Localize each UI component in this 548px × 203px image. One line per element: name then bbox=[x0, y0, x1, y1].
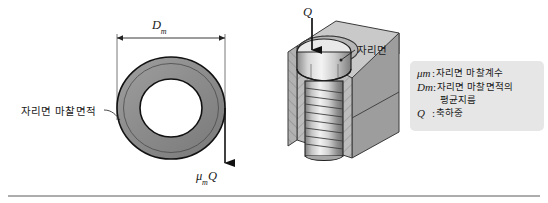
legend-symbol: Dm bbox=[417, 81, 433, 94]
friction-force-label: μmQ bbox=[196, 170, 217, 186]
axial-load-label: Q bbox=[303, 6, 312, 19]
seating-friction-area-label: 자리면 마찰면적 bbox=[21, 106, 96, 117]
legend-symbol: μm bbox=[417, 67, 432, 80]
seating-surface-label: 자리면 bbox=[357, 45, 388, 56]
legend-row: μm : 자리면 마찰계수 bbox=[417, 67, 544, 80]
legend-row: Q : 축하중 bbox=[417, 107, 544, 120]
legend-description: 자리면 마찰면적의 bbox=[437, 81, 513, 94]
legend-description: 자리면 마찰계수 bbox=[436, 67, 503, 80]
symbol-legend-box: μm : 자리면 마찰계수 Dm : 자리면 마찰면적의 평균지름 Q : 축하… bbox=[410, 61, 544, 131]
annulus-ring bbox=[117, 57, 225, 159]
legend-row: Dm : 자리면 마찰면적의 bbox=[417, 81, 544, 94]
legend-description-continuation: 평균지름 bbox=[417, 94, 544, 107]
legend-symbol: Q bbox=[417, 107, 432, 120]
technical-figure: Dm 자리면 마찰면적 μmQ Q 자리면 μm : 자리면 마찰계수 Dm :… bbox=[0, 0, 548, 203]
bolt bbox=[297, 39, 351, 161]
dimension-label-dm: Dm bbox=[152, 19, 167, 35]
legend-description: 축하중 bbox=[436, 107, 463, 120]
